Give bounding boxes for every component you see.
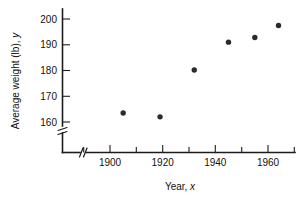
y-axis-title-text: Average weight (lb),	[10, 38, 21, 130]
x-tick-label-1960: 1960	[257, 157, 280, 168]
x-tick-label-1920: 1920	[152, 157, 175, 168]
y-axis-break-mark-upper	[58, 128, 67, 131]
x-tick-label-1940: 1940	[204, 157, 227, 168]
x-axis-title: Year, x	[165, 181, 196, 192]
data-point	[226, 39, 231, 44]
x-tick-label-1900: 1900	[99, 157, 122, 168]
data-point	[120, 110, 125, 115]
y-axis-title: Average weight (lb), y	[10, 32, 21, 130]
y-axis-title-variable: y	[10, 32, 21, 39]
y-tick-label-190: 190	[40, 39, 57, 50]
y-tick-label-180: 180	[40, 65, 57, 76]
y-tick-label-160: 160	[40, 117, 57, 128]
x-axis-title-text: Year,	[165, 181, 190, 192]
y-tick-label-170: 170	[40, 91, 57, 102]
data-point	[157, 114, 162, 119]
y-tick-label-200: 200	[40, 14, 57, 25]
scatter-chart-figure: 200 190 180 170 160 1900 1920 1940 1960 …	[0, 0, 304, 199]
data-point	[252, 35, 257, 40]
data-point	[276, 23, 281, 28]
data-point	[192, 67, 197, 72]
plot-area: 200 190 180 170 160 1900 1920 1940 1960 …	[0, 0, 304, 199]
data-points-group	[120, 23, 281, 120]
x-axis-title-variable: x	[189, 181, 196, 192]
